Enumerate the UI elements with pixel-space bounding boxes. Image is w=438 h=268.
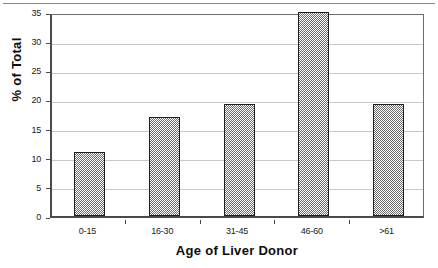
y-axis-tick-label: 5 <box>19 184 41 193</box>
plot-area <box>50 14 424 218</box>
x-axis-tick-mark <box>349 220 350 224</box>
y-axis-tick-label: 25 <box>19 67 41 76</box>
x-axis-title: Age of Liver Donor <box>50 243 424 258</box>
bar <box>149 117 180 216</box>
x-axis-tick-label: 31-45 <box>200 226 275 236</box>
top-horizontal-rule <box>3 3 435 4</box>
x-axis-tick-mark <box>200 220 201 224</box>
bar <box>298 12 329 216</box>
x-axis-tick-label: >61 <box>349 226 424 236</box>
y-axis-tick-label: 0 <box>19 213 41 222</box>
x-axis-tick-mark <box>125 220 126 224</box>
y-axis-tick-label: 35 <box>19 9 41 18</box>
x-axis-tick-label: 16-30 <box>125 226 200 236</box>
bar <box>373 104 404 216</box>
y-axis-tick-label: 30 <box>19 38 41 47</box>
x-axis-tick-mark <box>274 220 275 224</box>
bar <box>224 104 255 216</box>
y-axis-tick-label: 10 <box>19 155 41 164</box>
x-axis-tick-label: 46-60 <box>274 226 349 236</box>
bar-group <box>52 15 423 216</box>
bar <box>74 152 105 216</box>
y-axis-tick-label: 20 <box>19 96 41 105</box>
x-axis-tick-label: 0-15 <box>50 226 125 236</box>
y-axis-tick-label: 15 <box>19 126 41 135</box>
bar-chart-figure: % of Total 05101520253035 0-1516-3031-45… <box>0 0 438 268</box>
